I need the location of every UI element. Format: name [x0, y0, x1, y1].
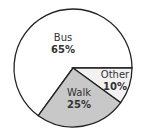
pct-walk: 25% [67, 99, 91, 110]
pct-other: 10% [103, 81, 127, 92]
pct-bus: 65% [51, 44, 75, 55]
label-other: Other [101, 69, 130, 80]
label-walk: Walk [67, 87, 91, 98]
pie-chart: Bus 65% Walk 25% Other 10% [0, 0, 143, 134]
label-bus: Bus [54, 32, 72, 43]
